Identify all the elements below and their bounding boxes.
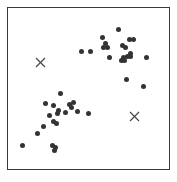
- data-point: [52, 148, 57, 153]
- data-point: [79, 49, 84, 54]
- data-point: [54, 121, 59, 126]
- data-point: [141, 84, 146, 89]
- data-point: [69, 105, 74, 110]
- data-point: [144, 55, 149, 60]
- plot-frame: [7, 7, 170, 170]
- data-point: [122, 58, 127, 63]
- data-point: [131, 37, 136, 42]
- data-point: [51, 103, 56, 108]
- figure-container: [0, 0, 177, 182]
- data-point: [41, 124, 46, 129]
- data-point: [43, 101, 48, 106]
- data-point: [58, 91, 63, 96]
- data-point: [47, 113, 52, 118]
- data-point: [86, 111, 91, 116]
- data-point: [100, 35, 105, 40]
- data-point: [128, 54, 133, 59]
- plot-area: [8, 8, 169, 169]
- data-point: [71, 100, 76, 105]
- data-point: [116, 27, 121, 32]
- data-point: [63, 110, 68, 115]
- data-point: [123, 45, 128, 50]
- data-point: [88, 49, 93, 54]
- centroid-x-marker: [128, 110, 141, 123]
- data-point: [75, 109, 80, 114]
- data-point: [55, 111, 60, 116]
- data-point: [107, 55, 112, 60]
- data-point: [124, 77, 129, 82]
- data-point: [35, 131, 40, 136]
- data-point: [20, 143, 25, 148]
- data-point: [105, 45, 110, 50]
- centroid-x-marker: [34, 56, 47, 69]
- figure-caption: [7, 172, 170, 181]
